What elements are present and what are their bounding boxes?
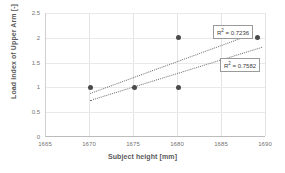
chart-figure: R2 = 0.7236 R2 = 0.7582 00.511.522.5 166… bbox=[0, 0, 285, 173]
gridline-horizontal bbox=[46, 13, 265, 14]
gridline-vertical bbox=[89, 13, 90, 136]
x-axis-tick-label: 1665 bbox=[38, 141, 52, 147]
gridline-vertical bbox=[133, 13, 134, 136]
y-axis-tick-label: 2.5 bbox=[22, 10, 40, 16]
x-axis-tick-label: 1685 bbox=[214, 141, 228, 147]
x-axis-label: Subject height [mm] bbox=[0, 153, 285, 160]
r2-upper-annotation: R2 = 0.7236 bbox=[213, 25, 253, 39]
data-point bbox=[132, 85, 137, 90]
x-axis-tick-label: 1675 bbox=[126, 141, 140, 147]
y-axis-tick-label: 1 bbox=[22, 84, 40, 90]
lower-trendline bbox=[90, 47, 262, 101]
gridline-horizontal bbox=[46, 87, 265, 88]
y-axis-label: Load index of Upper Arm [-] bbox=[10, 0, 17, 112]
data-point bbox=[88, 85, 93, 90]
gridline-horizontal bbox=[46, 112, 265, 113]
y-axis-tick-label: 1.5 bbox=[22, 60, 40, 66]
data-point bbox=[255, 35, 260, 40]
x-axis-tick-label: 1680 bbox=[170, 141, 184, 147]
plot-area: R2 = 0.7236 R2 = 0.7582 bbox=[45, 13, 265, 137]
y-axis-tick-label: 2 bbox=[22, 35, 40, 41]
r2-lower-annotation: R2 = 0.7582 bbox=[220, 58, 260, 72]
data-point bbox=[176, 85, 181, 90]
gridline-vertical bbox=[265, 13, 266, 136]
x-axis-tick-label: 1670 bbox=[82, 141, 96, 147]
data-point bbox=[176, 35, 181, 40]
r2-lower-value: = 0.7582 bbox=[231, 63, 256, 69]
y-axis-tick-label: 0.5 bbox=[22, 109, 40, 115]
gridline-vertical bbox=[177, 13, 178, 136]
r2-upper-value: = 0.7236 bbox=[224, 30, 249, 36]
y-axis-tick-label: 0 bbox=[22, 134, 40, 140]
x-axis-tick-label: 1690 bbox=[258, 141, 272, 147]
